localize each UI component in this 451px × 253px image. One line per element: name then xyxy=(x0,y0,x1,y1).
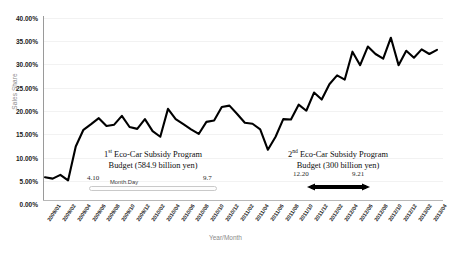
program-2-start-date: 12.20 xyxy=(293,170,309,178)
month-day-unit-label: Month.Day xyxy=(110,179,138,185)
y-tick-label: 25.00% xyxy=(2,85,38,92)
annotation-program-2-line1: 2nd Eco-Car Subsidy Program xyxy=(258,146,418,160)
chart-container: Sales Share 40.00% 35.00% 30.00% 25.00% … xyxy=(0,0,451,253)
annotation-program-1-line2: Budget (584.9 billion yen) xyxy=(73,160,233,172)
y-tick-label: 30.00% xyxy=(2,61,38,68)
annotation-program-1-line1: 1st Eco-Car Subsidy Program xyxy=(73,146,233,160)
x-axis-title: Year/Month xyxy=(0,234,451,241)
data-line-plot xyxy=(43,14,443,200)
annotation-program-1-text: 1st Eco-Car Subsidy Program Budget (584.… xyxy=(73,146,233,172)
y-tick-label: 40.00% xyxy=(2,15,38,22)
program-1-start-date: 4.10 xyxy=(87,174,99,182)
annotation-program-2-line2: Budget (300 billion yen) xyxy=(258,160,418,172)
y-tick-label: 5.00% xyxy=(2,178,38,185)
y-tick-label: 15.00% xyxy=(2,131,38,138)
program-2-end-date: 9.21 xyxy=(352,170,364,178)
annotation-program-2-text: 2nd Eco-Car Subsidy Program Budget (300 … xyxy=(258,146,418,172)
y-tick-label: 20.00% xyxy=(2,108,38,115)
y-tick-label: 35.00% xyxy=(2,38,38,45)
y-tick-label: 0.00% xyxy=(2,201,38,208)
program-1-duration-bar xyxy=(89,186,217,191)
program-2-duration-arrow xyxy=(307,183,370,191)
y-tick-label: 10.00% xyxy=(2,155,38,162)
program-1-end-date: 9.7 xyxy=(203,174,212,182)
x-axis-line xyxy=(43,200,443,201)
